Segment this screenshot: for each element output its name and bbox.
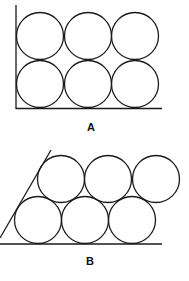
circle [112, 13, 159, 60]
panel-a-label: A [87, 121, 95, 133]
circle [15, 197, 62, 244]
circle [17, 13, 64, 60]
circle [17, 61, 64, 108]
circle [112, 61, 159, 108]
circle [62, 197, 109, 244]
circle [65, 61, 112, 108]
packing-diagram [0, 0, 189, 281]
circle [38, 156, 85, 203]
panel-a-square-packing [16, 5, 162, 109]
circle [65, 13, 112, 60]
circle [109, 197, 156, 244]
circle [133, 156, 180, 203]
circle [85, 156, 132, 203]
panel-b-label: B [86, 255, 94, 267]
panel-b-hexagonal-packing [0, 150, 180, 244]
